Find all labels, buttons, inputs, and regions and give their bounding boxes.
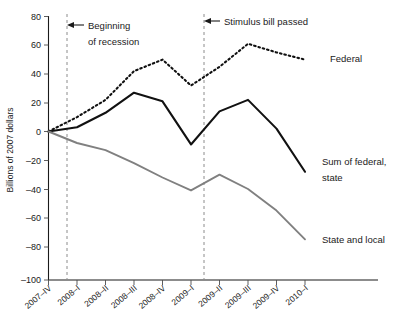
x-tick-label: 2008–I bbox=[55, 283, 81, 307]
y-axis-title: Billions of 2007 dollars bbox=[5, 107, 15, 192]
y-tick-label: –60 bbox=[26, 213, 41, 223]
stimulus-annotation-arrow bbox=[204, 18, 220, 24]
stimulus-annotation-line1: Stimulus bill passed bbox=[224, 16, 308, 27]
recession-annotation-line1: Beginning bbox=[88, 20, 130, 31]
y-tick-label: 20 bbox=[31, 98, 41, 108]
series-label-federal: Federal bbox=[330, 53, 362, 64]
x-tick-label: 2007–IV bbox=[23, 283, 54, 311]
y-axis-ticks: 80 60 40 20 0 –20 –40 –60 –80 –100 bbox=[21, 12, 49, 286]
x-tick-label: 2010–I bbox=[283, 283, 309, 307]
y-tick-label: 80 bbox=[31, 12, 41, 22]
series-line-state-and-local bbox=[49, 132, 306, 240]
recession-annotation-line2: of recession bbox=[88, 36, 139, 47]
x-axis-tick-labels: 2007–IV 2008–I 2008–II 2008–III 2008–IV … bbox=[23, 283, 310, 311]
chart-container: 80 60 40 20 0 –20 –40 –60 –80 –100 Billi… bbox=[0, 0, 402, 324]
x-tick-label: 2008–III bbox=[109, 283, 139, 310]
x-tick-label: 2008–II bbox=[82, 283, 110, 309]
series-label-state-and-local: State and local bbox=[322, 234, 385, 245]
x-tick-label: 2009–II bbox=[196, 283, 224, 309]
series-label-sum-line1: Sum of federal, bbox=[322, 156, 386, 167]
x-tick-label: 2008–IV bbox=[137, 283, 168, 311]
y-tick-label: –80 bbox=[26, 242, 41, 252]
series-label-sum-line2: state bbox=[322, 172, 343, 183]
y-tick-label: –20 bbox=[26, 156, 41, 166]
y-tick-label: 40 bbox=[31, 69, 41, 79]
x-tick-label: 2009–III bbox=[223, 283, 253, 310]
series-line-sum-federal-state-local bbox=[49, 93, 306, 172]
x-axis-ticks bbox=[49, 280, 306, 285]
x-tick-label: 2009–I bbox=[169, 283, 195, 307]
y-tick-label: 60 bbox=[31, 40, 41, 50]
x-tick-label: 2009–IV bbox=[251, 283, 282, 311]
recession-annotation-arrow bbox=[67, 22, 84, 28]
y-tick-label: –100 bbox=[21, 275, 41, 285]
y-tick-label: –40 bbox=[26, 185, 41, 195]
y-tick-label: 0 bbox=[36, 127, 41, 137]
line-chart: 80 60 40 20 0 –20 –40 –60 –80 –100 Billi… bbox=[0, 0, 402, 324]
